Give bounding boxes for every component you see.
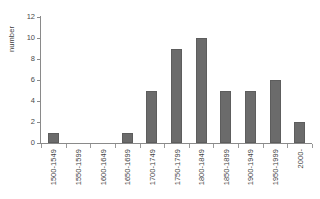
x-axis-label-text: 1650-1699 — [123, 149, 132, 185]
bar-chart: number 024681012 1500-15491550-15991600-… — [0, 0, 320, 199]
x-axis-label-text: 1750-1799 — [172, 149, 181, 185]
x-axis-tick — [140, 144, 141, 148]
x-axis-tick — [164, 144, 165, 148]
x-axis-label-text: 1850-1899 — [221, 149, 230, 185]
x-axis-tick — [66, 144, 67, 148]
bar — [48, 133, 59, 144]
bar — [270, 80, 281, 143]
x-axis-ticks — [41, 144, 312, 148]
x-axis-label-slot: 1600-1649 — [90, 149, 115, 197]
bar-slot — [238, 17, 263, 143]
bar-slot — [164, 17, 189, 143]
bar-slot — [90, 17, 115, 143]
x-axis-tick — [263, 144, 264, 148]
x-axis-label-slot: 1500-1549 — [41, 149, 66, 197]
x-axis-label-slot: 1550-1599 — [66, 149, 91, 197]
x-axis-label-text: 1600-1649 — [98, 149, 107, 185]
x-axis-labels: 1500-15491550-15991600-16491650-16991700… — [41, 149, 312, 197]
x-axis-label-slot: 1950-1999 — [263, 149, 288, 197]
x-axis-label-slot: 2000- — [287, 149, 312, 197]
x-axis-label-slot: 1700-1749 — [140, 149, 165, 197]
x-axis-label-text: 1950-1999 — [271, 149, 280, 185]
x-axis-label-slot: 1650-1699 — [115, 149, 140, 197]
bar-slot — [287, 17, 312, 143]
x-axis-tick — [287, 144, 288, 148]
bar — [220, 91, 231, 144]
x-axis-label-slot: 1900-1949 — [238, 149, 263, 197]
x-axis-label-text: 1700-1749 — [147, 149, 156, 185]
x-axis-label-text: 2000- — [295, 149, 304, 168]
x-axis-tick — [90, 144, 91, 148]
x-axis-tick — [41, 144, 42, 148]
x-axis-tick — [115, 144, 116, 148]
bar-slot — [189, 17, 214, 143]
y-axis-tick-label-text: 0 — [14, 139, 35, 147]
bar-slot — [263, 17, 288, 143]
bar — [245, 91, 256, 144]
x-axis-tick — [213, 144, 214, 148]
bar — [122, 133, 133, 144]
bar — [171, 49, 182, 144]
y-axis-tick-label: 4 — [14, 97, 35, 105]
y-axis-tick-label: 0 — [14, 139, 35, 147]
bar-slot — [66, 17, 91, 143]
y-axis-tick-label-text: 10 — [14, 34, 35, 42]
y-axis-tick-label-text: 4 — [14, 97, 35, 105]
y-axis-tick-label: 12 — [14, 13, 35, 21]
y-axis-tick-label-text: 2 — [14, 118, 35, 126]
x-axis-label-text: 1550-1599 — [73, 149, 82, 185]
bar-slot — [213, 17, 238, 143]
x-axis-label-slot: 1750-1799 — [164, 149, 189, 197]
x-axis-label-slot: 1800-1849 — [189, 149, 214, 197]
y-axis-tick-label: 2 — [14, 118, 35, 126]
x-axis-label-text: 1900-1949 — [246, 149, 255, 185]
x-axis-label-text: 1500-1549 — [49, 149, 58, 185]
y-axis-tick-label-text: 12 — [14, 13, 35, 21]
y-axis-tick-label: 10 — [14, 34, 35, 42]
x-axis-label-slot: 1850-1899 — [213, 149, 238, 197]
x-axis-label-text: 1800-1849 — [197, 149, 206, 185]
bar-series — [41, 17, 312, 143]
bar — [196, 38, 207, 143]
bar — [146, 91, 157, 144]
x-axis-tick — [238, 144, 239, 148]
bar-slot — [41, 17, 66, 143]
y-axis-tick-label-text: 8 — [14, 55, 35, 63]
bar — [294, 122, 305, 143]
y-axis-tick-label: 8 — [14, 55, 35, 63]
bar-slot — [140, 17, 165, 143]
y-axis-tick-label-text: 6 — [14, 76, 35, 84]
plot-area — [41, 17, 312, 143]
x-axis-tick — [312, 144, 313, 148]
x-axis-tick — [189, 144, 190, 148]
y-axis-tick-label: 6 — [14, 76, 35, 84]
bar-slot — [115, 17, 140, 143]
